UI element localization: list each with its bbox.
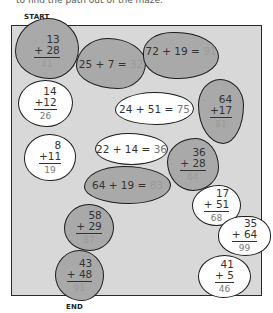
stone-8-plus-11[interactable]: 8 +11 19	[24, 134, 76, 181]
instructions-text: to find the path out of the maze.	[16, 0, 163, 5]
stone-41-plus-5[interactable]: 41 + 5 46	[198, 255, 251, 298]
addend-bottom: + 48	[67, 269, 93, 280]
addend-bottom: + 28	[180, 158, 206, 169]
sum-answer: 91	[74, 283, 85, 294]
stone-43-plus-48[interactable]: 43 + 48 91	[55, 250, 104, 301]
equation: 22 + 14 =	[96, 143, 150, 155]
equation-answer: 83	[150, 179, 163, 191]
equation-answer: 36	[154, 143, 167, 155]
addend-top: 8	[54, 140, 61, 151]
sum-line	[39, 163, 61, 164]
addend-top: 13	[46, 34, 59, 45]
addend-bottom: + 29	[76, 221, 102, 232]
addend-bottom: + 28	[34, 45, 60, 56]
addend-top: 64	[219, 94, 232, 105]
addend-bottom: + 51	[204, 199, 230, 210]
stone-22-plus-14[interactable]: 22 + 14 = 36	[95, 133, 168, 165]
equation: 24 + 51 =	[119, 103, 173, 115]
stone-58-plus-29[interactable]: 58 + 29 87	[64, 204, 114, 251]
addend-top: 41	[221, 259, 234, 270]
equation-answer: 75	[177, 103, 190, 115]
stone-24-plus-51[interactable]: 24 + 51 = 75	[115, 92, 194, 125]
equation-answer: 32	[130, 58, 143, 70]
sum-line	[215, 282, 234, 283]
sum-answer: 81	[215, 119, 226, 130]
stone-64-plus-19[interactable]: 64 + 19 = 83	[84, 166, 171, 204]
sum-line	[180, 170, 206, 171]
sum-line	[76, 233, 102, 234]
sum-answer: 41	[41, 59, 52, 70]
end-label: END	[66, 303, 83, 311]
addend-top: 17	[216, 188, 229, 199]
addend-top: 14	[43, 86, 56, 97]
sum-answer: 99	[239, 243, 250, 254]
sum-line	[204, 211, 230, 212]
addend-top: 58	[88, 210, 101, 221]
sum-line	[67, 281, 93, 282]
stone-72-plus-19[interactable]: 72 + 19 = 91	[143, 32, 219, 79]
sum-answer: 87	[83, 235, 94, 246]
addend-bottom: + 64	[232, 229, 258, 240]
stone-25-plus-7[interactable]: 25 + 7 = 32	[76, 38, 146, 89]
addend-bottom: +12	[34, 97, 56, 108]
sum-line	[34, 109, 56, 110]
sum-answer: 46	[219, 284, 230, 295]
addend-top: 36	[192, 147, 205, 158]
sum-line	[232, 241, 258, 242]
addend-bottom: + 5	[215, 270, 234, 281]
equation-answer: 91	[203, 45, 216, 57]
equation: 25 + 7 =	[79, 58, 127, 70]
sum-line	[34, 57, 60, 58]
stone-36-plus-28[interactable]: 36 + 28 64	[167, 138, 219, 191]
equation: 72 + 19 =	[145, 45, 199, 57]
sum-answer: 19	[44, 165, 55, 176]
addend-bottom: +17	[210, 105, 232, 116]
equation: 64 + 19 =	[92, 179, 146, 191]
addend-top: 43	[79, 258, 92, 269]
sum-answer: 68	[211, 213, 222, 224]
stone-35-plus-64[interactable]: 35 + 64 99	[218, 216, 271, 256]
sum-answer: 64	[187, 172, 198, 183]
stone-13-plus-28[interactable]: 13 + 28 41	[15, 18, 79, 79]
stone-14-plus-12[interactable]: 14 +12 26	[18, 80, 73, 127]
sum-line	[210, 117, 232, 118]
addend-bottom: +11	[39, 151, 61, 162]
sum-answer: 26	[40, 111, 51, 122]
